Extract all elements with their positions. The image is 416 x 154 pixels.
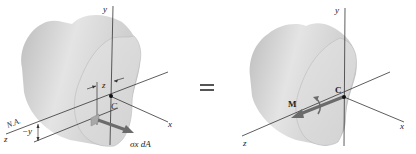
label-centroid: C — [335, 85, 342, 95]
label-neutral-axis: N.A. — [4, 116, 21, 130]
right-panel: y x z C M — [242, 5, 404, 148]
x-axis — [344, 97, 404, 122]
label-stress-force: σx dA — [130, 139, 151, 149]
label-minus-y: −y — [22, 126, 32, 136]
bending-diagram: y x z C N.A. z −y σx dA y x z C M — [0, 0, 416, 154]
label-z-axis: z — [3, 134, 8, 144]
label-y-axis: y — [102, 4, 107, 14]
label-x-axis: x — [167, 119, 172, 129]
centroid-point — [109, 94, 113, 98]
centroid-point — [342, 95, 346, 99]
left-panel: y x z C N.A. z −y σx dA — [3, 4, 172, 149]
label-z-axis: z — [242, 138, 247, 148]
label-y-axis: y — [334, 5, 339, 15]
label-centroid: C — [111, 101, 118, 111]
label-moment: M — [288, 99, 297, 109]
equals-sign — [200, 84, 220, 93]
arrowhead — [37, 124, 40, 128]
label-x-axis: x — [399, 121, 404, 131]
label-z-offset: z — [101, 80, 106, 90]
